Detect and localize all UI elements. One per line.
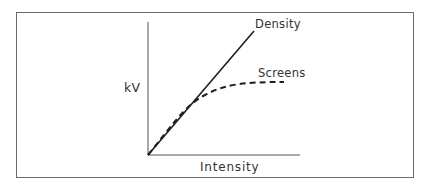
density-curve-label: Density [255, 17, 301, 31]
screens-curve [148, 82, 284, 155]
x-axis-label: Intensity [200, 160, 259, 174]
screens-curve-label: Screens [258, 66, 306, 80]
y-axis-label: kV [124, 80, 140, 95]
